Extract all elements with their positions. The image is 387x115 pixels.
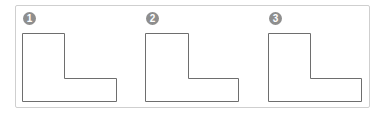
l-shape-3 [269,34,362,102]
diagram-stage: 1 2 3 [0,0,387,115]
l-shapes [0,0,387,115]
l-shape-1 [23,34,117,102]
l-shape-2 [146,34,239,102]
